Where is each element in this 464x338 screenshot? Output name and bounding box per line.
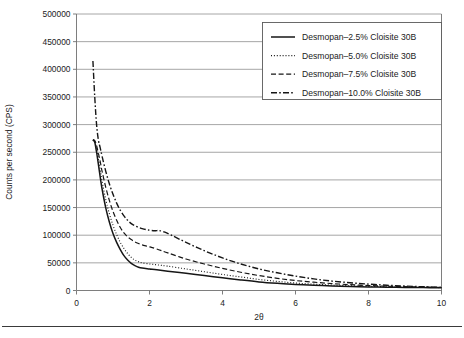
chart-figure: 0500001000001500002000002500003000003500… — [0, 0, 464, 338]
xrd-line-chart: 0500001000001500002000002500003000003500… — [0, 0, 464, 338]
y-tick-label: 150000 — [43, 203, 71, 213]
x-axis-title: 2θ — [254, 312, 264, 322]
legend-label: Desmopan–10.0% Cloisite 30B — [302, 88, 421, 98]
y-tick-label: 400000 — [43, 64, 71, 74]
y-tick-label: 450000 — [43, 37, 71, 47]
y-tick-label: 50000 — [47, 258, 71, 268]
chart-legend: Desmopan–2.5% Cloisite 30BDesmopan–5.0% … — [263, 23, 442, 100]
y-axis-title: Counts per second (CPS) — [4, 104, 14, 200]
y-tick-label: 300000 — [43, 120, 71, 130]
y-tick-label: 0 — [66, 286, 71, 296]
legend-label: Desmopan–2.5% Cloisite 30B — [302, 32, 416, 42]
y-tick-label: 250000 — [43, 147, 71, 157]
x-tick-label: 4 — [220, 298, 225, 308]
y-tick-label: 350000 — [43, 92, 71, 102]
legend-label: Desmopan–5.0% Cloisite 30B — [302, 51, 416, 61]
x-tick-label: 2 — [147, 298, 152, 308]
y-tick-label: 100000 — [43, 230, 71, 240]
x-tick-label: 0 — [74, 298, 79, 308]
x-tick-label: 8 — [366, 298, 371, 308]
x-tick-label: 10 — [437, 298, 447, 308]
legend-label: Desmopan–7.5% Cloisite 30B — [302, 69, 416, 79]
y-tick-label: 200000 — [43, 175, 71, 185]
y-tick-label: 500000 — [43, 9, 71, 19]
x-tick-label: 6 — [293, 298, 298, 308]
